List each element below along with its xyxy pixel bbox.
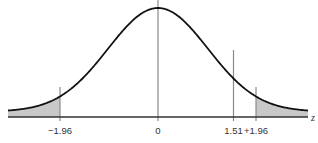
tick-label: −1.96 xyxy=(48,125,72,136)
normal-distribution-chart: −1.9601.51+1.96 z xyxy=(0,0,318,143)
tick-labels: −1.9601.51+1.96 xyxy=(48,125,268,136)
tick-label: 1.51 xyxy=(224,125,243,136)
tick-label: +1.96 xyxy=(244,125,268,136)
guide-lines xyxy=(60,0,256,121)
x-axis-label: z xyxy=(310,112,315,123)
tick-label: 0 xyxy=(155,125,160,136)
